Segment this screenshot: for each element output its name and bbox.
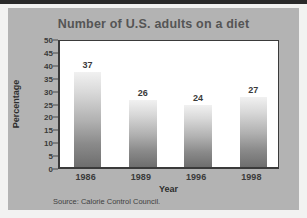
chart-panel: Number of U.S. adults on a diet Percenta… [8, 8, 299, 210]
bar [184, 105, 212, 167]
x-axis-label: Year [58, 184, 279, 194]
y-tick-label: 25 [27, 100, 53, 109]
bar-value-label: 24 [174, 93, 222, 103]
y-tick-label: 5 [27, 152, 53, 161]
bars-container: 37262427 [60, 41, 278, 167]
y-tick-label: 30 [27, 87, 53, 96]
x-tick-label: 1996 [169, 172, 224, 182]
y-tick-label: 0 [27, 165, 53, 174]
x-tick-label: 1998 [224, 172, 279, 182]
bar-value-label: 27 [230, 85, 278, 95]
y-axis-label: Percentage [11, 80, 21, 129]
chart-figure: Number of U.S. adults on a diet Percenta… [0, 0, 307, 218]
x-tick-label: 1989 [113, 172, 168, 182]
y-tick-label: 15 [27, 126, 53, 135]
bar [240, 97, 268, 167]
bar-value-label: 26 [119, 88, 167, 98]
y-tick-label: 20 [27, 113, 53, 122]
chart-title: Number of U.S. adults on a diet [8, 17, 299, 31]
y-tick-label: 50 [27, 36, 53, 45]
y-tick-label: 10 [27, 139, 53, 148]
bar-value-label: 37 [64, 60, 112, 70]
y-tick-label: 45 [27, 48, 53, 57]
plot-area: 37262427 [58, 40, 279, 169]
x-tick-label: 1986 [58, 172, 113, 182]
bar [129, 100, 157, 167]
source-note: Source: Calorie Control Council. [53, 197, 160, 206]
top-edge-band [0, 0, 307, 4]
bar [74, 72, 102, 167]
y-tick-label: 35 [27, 74, 53, 83]
y-tick-label: 40 [27, 61, 53, 70]
